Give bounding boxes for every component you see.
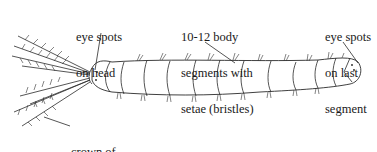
label-eye-spots-tail: eye spots on last segment: [325, 7, 371, 139]
label-body-segments: 10-12 body segments with setae (bristles…: [181, 7, 254, 139]
label-crown-tentacles: crown of feathery tentacles: [71, 122, 159, 152]
larva-diagram: eye spots on head 10-12 body segments wi…: [0, 0, 377, 152]
leader-crown-tentacles: [44, 117, 70, 126]
label-eye-spots-head: eye spots on head: [76, 7, 122, 103]
